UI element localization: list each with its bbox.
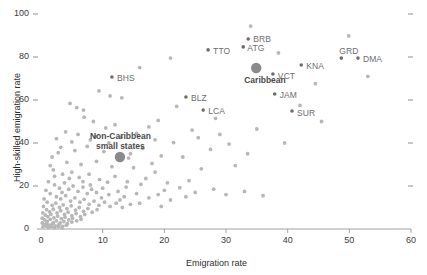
- scatter-chart: 0102030405060020406080100BHSTTOBRBATGBLZ…: [0, 0, 427, 275]
- x-tick-label: 20: [149, 235, 179, 245]
- data-point: [273, 92, 277, 96]
- data-point: [246, 37, 250, 41]
- data-point: [55, 195, 59, 199]
- data-point: [314, 82, 318, 86]
- data-point: [44, 188, 48, 192]
- data-point: [55, 219, 59, 223]
- x-tick-label: 0: [26, 235, 56, 245]
- y-axis-title: High-skilled emigration rate: [12, 73, 22, 182]
- data-point: [196, 136, 200, 140]
- data-point: [69, 199, 73, 203]
- data-point: [159, 154, 163, 158]
- data-point: [69, 204, 73, 208]
- data-point: [70, 140, 74, 144]
- data-point: [42, 205, 46, 209]
- data-point: [172, 141, 176, 145]
- data-point: [62, 220, 66, 224]
- data-point: [64, 130, 68, 134]
- data-point: [53, 226, 57, 230]
- data-point: [290, 109, 294, 113]
- data-point: [45, 200, 49, 204]
- data-point: [85, 145, 89, 149]
- data-point: [68, 102, 72, 106]
- point-label-grd: GRD: [339, 46, 358, 56]
- data-point: [66, 210, 70, 214]
- point-label-lca: LCA: [208, 106, 225, 116]
- x-tick-label: 30: [211, 235, 241, 245]
- data-point: [169, 56, 173, 60]
- data-point: [87, 172, 91, 176]
- data-point: [56, 214, 60, 218]
- data-point: [224, 193, 228, 197]
- data-point: [209, 148, 213, 152]
- data-point: [81, 180, 85, 184]
- data-point: [88, 183, 92, 187]
- data-point: [61, 203, 65, 207]
- data-point: [116, 189, 120, 193]
- data-point: [78, 200, 82, 204]
- data-point: [201, 108, 205, 112]
- data-point: [51, 207, 55, 211]
- data-point: [79, 217, 83, 221]
- data-point: [277, 51, 281, 55]
- data-point: [261, 194, 265, 198]
- data-point: [50, 203, 54, 207]
- data-point: [320, 120, 324, 124]
- data-point: [49, 212, 53, 216]
- data-point: [59, 145, 63, 149]
- data-point: [212, 187, 216, 191]
- data-point: [283, 141, 287, 145]
- data-point: [139, 182, 143, 186]
- data-point: [63, 181, 67, 185]
- data-point: [95, 159, 99, 163]
- data-point: [60, 226, 64, 230]
- data-point: [73, 149, 77, 153]
- data-point: [65, 160, 69, 164]
- x-axis-title: Emigration rate: [186, 258, 247, 268]
- data-point: [52, 216, 56, 220]
- x-tick-label: 50: [334, 235, 364, 245]
- data-point: [79, 163, 83, 167]
- data-point: [53, 174, 57, 178]
- data-point: [118, 198, 122, 202]
- data-point: [76, 189, 80, 193]
- data-point: [366, 74, 370, 78]
- point-label-dma: DMA: [363, 54, 382, 64]
- data-point: [166, 181, 170, 185]
- data-point: [156, 119, 160, 123]
- point-label-atg: ATG: [247, 43, 264, 53]
- data-point: [87, 202, 91, 206]
- data-point: [64, 194, 68, 198]
- point-label-kna: KNA: [306, 61, 324, 71]
- data-point: [122, 195, 126, 199]
- data-point: [67, 177, 71, 181]
- data-point: [90, 187, 94, 191]
- data-point: [114, 201, 118, 205]
- data-point: [74, 212, 78, 216]
- data-point: [227, 142, 231, 146]
- data-point: [147, 125, 151, 129]
- data-point: [129, 202, 133, 206]
- data-point: [120, 96, 124, 100]
- data-point: [70, 220, 74, 224]
- data-point: [76, 133, 80, 137]
- data-point: [147, 196, 151, 200]
- data-point: [86, 207, 90, 211]
- data-point: [56, 151, 60, 155]
- data-point: [108, 205, 112, 209]
- data-point: [77, 176, 81, 180]
- data-point: [54, 201, 58, 205]
- data-point: [97, 203, 101, 207]
- data-point: [175, 105, 179, 109]
- data-point: [206, 48, 210, 52]
- data-point: [159, 205, 163, 209]
- data-point: [82, 115, 86, 119]
- data-point: [85, 192, 89, 196]
- data-point: [65, 207, 69, 211]
- data-point: [356, 56, 360, 60]
- data-point: [169, 198, 173, 202]
- cluster-label: Non-Caribbeansmall states: [90, 131, 151, 151]
- data-point: [59, 209, 63, 213]
- data-point: [90, 210, 94, 214]
- data-point: [132, 166, 136, 170]
